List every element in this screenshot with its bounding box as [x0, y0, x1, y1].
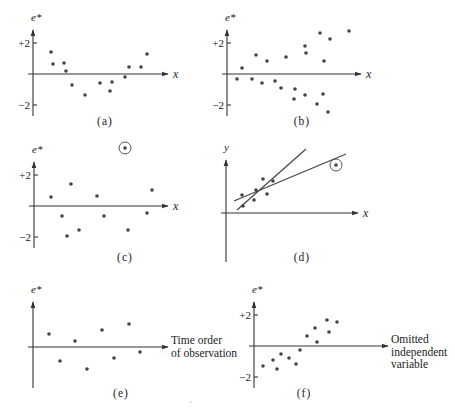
data-point: [273, 79, 277, 83]
data-point: [51, 62, 55, 66]
tick-label: +2: [212, 37, 224, 49]
panel-caption: (f): [297, 387, 312, 400]
data-point: [304, 51, 308, 55]
tick-label: −2: [19, 231, 31, 243]
data-point: [138, 350, 142, 354]
data-point: [110, 80, 114, 84]
data-point: [328, 37, 332, 41]
panel-e: e*Time orderof observation(e): [28, 283, 237, 400]
data-point: [64, 69, 68, 73]
tick-label: +2: [239, 309, 251, 321]
x-axis-label: x: [172, 199, 179, 213]
data-point: [313, 326, 317, 330]
fit-without-outlier-line: [237, 149, 306, 210]
panel-c: e*+2−2x(c): [19, 142, 179, 264]
data-point: [303, 93, 307, 97]
y-axis-label: y: [223, 141, 229, 153]
data-point: [60, 214, 64, 218]
data-point: [73, 339, 77, 343]
data-point: [284, 55, 288, 59]
data-point: [305, 334, 309, 338]
data-point: [252, 198, 256, 202]
data-point: [49, 195, 53, 199]
data-point: [85, 367, 89, 371]
panel-b: e*+2−2x(b): [212, 11, 372, 128]
data-point: [126, 228, 130, 232]
data-point: [62, 61, 66, 65]
panel-caption: (d): [294, 251, 310, 264]
panel-caption: (b): [294, 115, 310, 128]
x-axis-label-line: Time order: [171, 334, 222, 346]
residual-plots-figure: e*+2−2x(a)e*+2−2x(b)e*+2−2x(c)yx(d)e*Tim…: [0, 0, 455, 412]
y-axis-label: e*: [31, 11, 42, 23]
data-point: [150, 188, 154, 192]
data-point: [58, 359, 62, 363]
data-point: [335, 320, 339, 324]
data-point: [112, 356, 116, 360]
x-axis-label-line: of observation: [171, 347, 237, 359]
data-point: [70, 83, 74, 87]
data-point: [98, 81, 102, 85]
x-axis-label: x: [365, 67, 372, 81]
y-axis-label: e*: [32, 143, 43, 155]
data-point: [275, 367, 279, 371]
y-axis-label: e*: [252, 283, 263, 295]
x-axis-label-line: independent: [391, 346, 448, 359]
data-point: [293, 87, 297, 91]
panel-a: e*+2−2x(a): [18, 11, 179, 128]
data-point: [145, 52, 149, 56]
data-point: [95, 194, 99, 198]
data-point: [100, 328, 104, 332]
data-point: [265, 192, 269, 196]
data-point: [127, 322, 131, 326]
data-point: [279, 86, 283, 90]
data-point: [292, 97, 296, 101]
x-axis-label: x: [362, 206, 369, 220]
data-point: [145, 211, 149, 215]
x-axis-label: x: [172, 67, 179, 81]
data-point: [260, 81, 264, 85]
data-point: [271, 358, 275, 362]
data-point: [327, 330, 331, 334]
data-point: [321, 92, 325, 96]
panel-caption: (c): [117, 251, 133, 264]
data-point: [49, 50, 53, 54]
tick-label: −2: [18, 99, 30, 111]
x-axis-label-line: Omitted: [391, 333, 429, 345]
data-point: [65, 234, 69, 238]
data-point: [347, 29, 351, 33]
data-point: [83, 93, 87, 97]
data-point: [235, 77, 239, 81]
data-point: [102, 214, 106, 218]
data-point: [271, 179, 275, 183]
data-point: [261, 177, 265, 181]
tick-label: +2: [19, 169, 31, 181]
data-point: [108, 89, 112, 93]
panel-caption: (a): [97, 115, 113, 128]
data-point: [254, 188, 258, 192]
x-axis-label-line: variable: [391, 358, 428, 370]
data-point: [315, 340, 319, 344]
data-point: [298, 348, 302, 352]
tick-label: −2: [212, 99, 224, 111]
data-point: [261, 364, 265, 368]
tick-label: +2: [18, 37, 30, 49]
data-point: [123, 75, 127, 79]
data-point: [265, 59, 269, 63]
data-point: [326, 110, 330, 114]
data-point: [127, 65, 131, 69]
fit-with-outlier-line: [234, 154, 346, 201]
panel-caption: (e): [113, 387, 129, 400]
data-point: [315, 102, 319, 106]
data-point: [139, 65, 143, 69]
data-point: [47, 332, 51, 336]
data-point: [240, 193, 244, 197]
data-point: [254, 53, 258, 57]
y-axis-label: e*: [225, 11, 236, 23]
data-point: [279, 352, 283, 356]
outlier-point: [334, 163, 338, 167]
data-point: [77, 228, 81, 232]
panel-d: yx(d): [221, 141, 369, 264]
stray-mark: [190, 401, 191, 402]
data-point: [69, 182, 73, 186]
